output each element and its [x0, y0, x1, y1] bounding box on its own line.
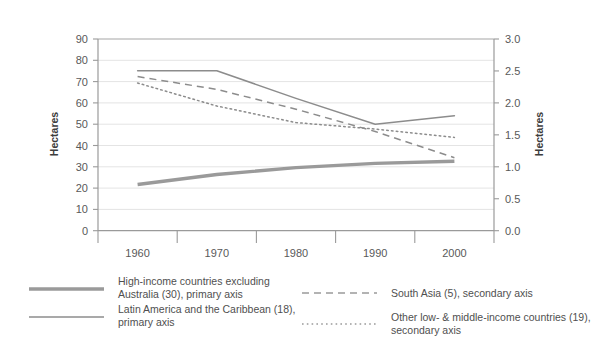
chart-plot-area: 90 80 70 60 50 40 30 20 10 0 — [0, 0, 593, 270]
legend-label-line1: Latin America and the Caribbean (18), — [118, 303, 295, 315]
left-axis-title: Hectares — [48, 112, 60, 157]
right-tick-label: 2.0 — [505, 97, 520, 109]
legend-item-other-low-middle-income[interactable]: Other low- & middle-income countries (19… — [302, 311, 591, 336]
left-tick-label: 70 — [76, 76, 88, 88]
left-tick-label: 30 — [76, 161, 88, 173]
left-tick-label: 10 — [76, 203, 88, 215]
x-tick-label-1980: 1980 — [284, 247, 308, 259]
line-chart-svg: 90 80 70 60 50 40 30 20 10 0 — [0, 0, 593, 270]
legend-label-line2: secondary axis — [391, 324, 461, 336]
chart-legend: High-income countries excluding Australi… — [0, 272, 593, 358]
legend-item-latin-america[interactable]: Latin America and the Caribbean (18), pr… — [29, 303, 295, 328]
legend-item-high-income[interactable]: High-income countries excluding Australi… — [29, 275, 270, 300]
right-axis-title: Hectares — [533, 112, 545, 157]
right-tick-label: 3.0 — [505, 33, 520, 45]
right-tick-label: 2.5 — [505, 65, 520, 77]
figure-container: 90 80 70 60 50 40 30 20 10 0 — [0, 0, 593, 358]
x-tick-label-1970: 1970 — [205, 247, 229, 259]
legend-label-line2: primary axis — [118, 316, 175, 328]
legend-item-south-asia[interactable]: South Asia (5), secondary axis — [302, 287, 533, 299]
left-tick-label: 60 — [76, 97, 88, 109]
left-tick-label: 0 — [82, 225, 88, 237]
legend-label-line1: South Asia (5), secondary axis — [391, 287, 533, 299]
legend-label-line1: High-income countries excluding — [118, 275, 270, 287]
right-tick-label: 0.5 — [505, 193, 520, 205]
right-tick-label: 0.0 — [505, 225, 520, 237]
legend-svg: High-income countries excluding Australi… — [0, 272, 593, 358]
right-tick-label: 1.0 — [505, 161, 520, 173]
x-tick-label-2000: 2000 — [442, 247, 466, 259]
left-tick-label: 50 — [76, 118, 88, 130]
left-tick-label: 90 — [76, 33, 88, 45]
left-tick-label: 80 — [76, 54, 88, 66]
right-tick-label: 1.5 — [505, 129, 520, 141]
x-tick-label-1990: 1990 — [363, 247, 387, 259]
x-tick-label-1960: 1960 — [125, 247, 149, 259]
left-tick-label: 20 — [76, 182, 88, 194]
legend-label-line1: Other low- & middle-income countries (19… — [391, 311, 591, 323]
left-tick-label: 40 — [76, 140, 88, 152]
legend-label-line2: Australia (30), primary axis — [118, 288, 243, 300]
